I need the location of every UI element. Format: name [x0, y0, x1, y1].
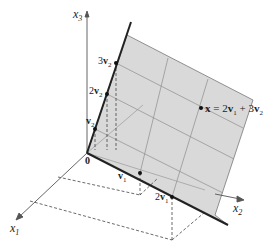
point-2v1 [170, 195, 174, 199]
x3-axis-label: x3 [72, 7, 82, 23]
x1-axis-label: x1 [9, 221, 19, 237]
3v2-label: 3v2 [98, 55, 112, 69]
point-x [199, 106, 203, 110]
x2-axis-label: x2 [232, 201, 242, 217]
point-3v2 [114, 61, 118, 65]
2v2-label: 2v2 [89, 85, 103, 99]
point-v1 [138, 171, 142, 175]
origin-label: 0 [85, 155, 90, 166]
x1-axis [19, 153, 87, 217]
span-plane-diagram: x3 x1 x2 0 v2 2v2 3v2 v1 2v1 x = 2v1 + 3… [0, 0, 273, 247]
x3-arrow-icon [85, 11, 89, 17]
point-2v2 [105, 92, 109, 96]
